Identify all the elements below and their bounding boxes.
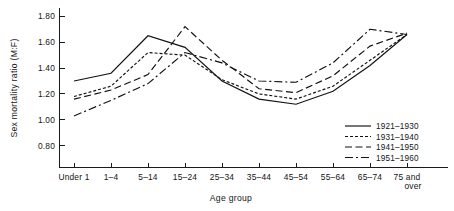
y-tick-label: 1.40 xyxy=(38,63,55,73)
x-tick-label: 15–24 xyxy=(173,172,197,182)
chart-figure: 0.801.001.201.401.601.80 Sex mortality r… xyxy=(0,0,454,211)
x-axis-title: Age group xyxy=(210,193,252,203)
x-tick-label: 35–44 xyxy=(247,172,271,182)
x-tick-label: Under 1 xyxy=(58,172,89,182)
y-tick-label: 1.80 xyxy=(38,11,55,21)
x-tick-label: 5–14 xyxy=(138,172,158,182)
x-tick-label: 55–64 xyxy=(321,172,345,182)
legend-label: 1941–1950 xyxy=(376,143,419,152)
x-tick-label: 1–4 xyxy=(104,172,119,182)
y-axis-title: Sex mortality ratio (M:F) xyxy=(9,38,19,137)
x-tick-label: 25–34 xyxy=(210,172,234,182)
legend-label: 1931–1940 xyxy=(376,133,419,142)
y-tick-label: 1.20 xyxy=(38,89,55,99)
x-tick-label: 45–54 xyxy=(284,172,308,182)
legend-label: 1951–1960 xyxy=(376,154,419,163)
x-tick-label: 65–74 xyxy=(358,172,382,182)
y-tick-label: 1.00 xyxy=(38,115,55,125)
y-tick-label: 1.60 xyxy=(38,37,55,47)
chart-canvas: 0.801.001.201.401.601.80 Sex mortality r… xyxy=(0,0,454,211)
y-tick-label: 0.80 xyxy=(38,141,55,151)
legend-label: 1921–1930 xyxy=(376,122,419,131)
